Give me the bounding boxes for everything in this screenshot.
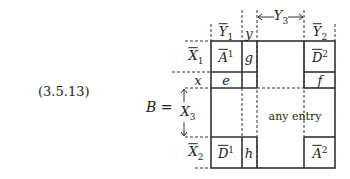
row-label-x: x (194, 73, 201, 88)
row-label-x1: X1 (189, 48, 204, 66)
column-label-y3: Y3 (274, 8, 288, 26)
block-matrix-diagram (0, 0, 350, 179)
cell-a1: A1 (218, 49, 233, 65)
row-label-x2: X2 (189, 144, 204, 162)
cell-g: g (245, 50, 253, 65)
cell-f: f (318, 73, 323, 88)
column-label-y1: Y1 (219, 24, 233, 42)
cell-h: h (245, 146, 253, 161)
column-label-y: y (245, 26, 252, 41)
cell-any-entry: any entry (269, 110, 322, 123)
cell-e: e (222, 73, 230, 88)
cell-a2: A2 (312, 145, 327, 161)
cell-d1: D1 (218, 145, 234, 161)
column-label-y2: Y2 (313, 24, 327, 42)
cell-d2: D2 (312, 49, 328, 65)
row-label-x3: X3 (181, 104, 196, 122)
